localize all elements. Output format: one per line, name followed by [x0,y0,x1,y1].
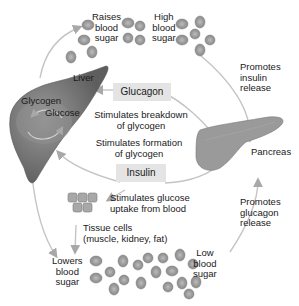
lowers-blood-sugar-label: Lowers blood sugar [52,256,83,288]
stimulates-formation-label: Stimulates formation of glycogen [86,138,192,159]
blood-cells-high [176,16,215,56]
raises-line3: sugar [92,33,121,44]
low-blood-sugar-label: Low blood sugar [193,248,217,280]
glycogen-label: Glycogen [21,96,61,107]
glucose-label: Glucose [45,108,80,119]
arrow-liver-to-lowers [32,175,56,256]
stimulates-uptake-label: Stimulates glucose uptake from blood [110,193,190,214]
insulin-box: Insulin [116,164,166,182]
lowers-line1: Lowers [52,256,83,267]
tissue-line2: (muscle, kidney, fat) [83,234,167,245]
formation-line1: Stimulates formation [86,138,192,149]
tissue-line1: Tissue cells [83,223,167,234]
lowers-line3: sugar [52,277,83,288]
raises-line1: Raises [92,12,121,23]
stimulates-breakdown-label: Stimulates breakdown of glycogen [88,110,194,131]
pancreas-icon [196,117,283,171]
high-line1: High [152,12,176,23]
high-blood-sugar-label: High blood sugar [152,12,176,44]
formation-line2: of glycogen [86,149,192,160]
tissue-cells-label: Tissue cells (muscle, kidney, fat) [83,223,167,244]
promotes-glucagon-release-label: Promotes glucagon release [240,197,281,229]
uptake-line2: uptake from blood [110,204,190,215]
arrow-tissue-to-lowers [75,225,76,252]
glucagon-release-line3: release [240,218,281,229]
promotes-insulin-release-label: Promotes insulin release [240,62,281,94]
low-line1: Low [193,248,217,259]
breakdown-line1: Stimulates breakdown [88,110,194,121]
raises-blood-sugar-label: Raises blood sugar [92,12,121,44]
liver-label: Liver [73,73,94,84]
breakdown-line2: of glycogen [88,121,194,132]
glucose-regulation-diagram: Raises blood sugar High blood sugar Prom… [0,0,299,306]
glucagon-box: Glucagon [113,83,171,101]
insulin-release-line3: release [240,83,281,94]
tissue-cells-icon [68,193,97,212]
uptake-line1: Stimulates glucose [110,193,190,204]
pancreas-label: Pancreas [251,147,291,158]
insulin-release-line1: Promotes [240,62,281,73]
low-line3: sugar [193,269,217,280]
glucagon-release-line1: Promotes [240,197,281,208]
blood-cells-low [90,249,201,299]
high-line3: sugar [152,33,176,44]
